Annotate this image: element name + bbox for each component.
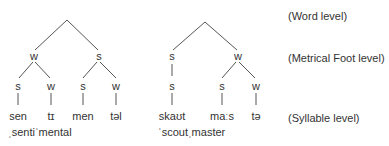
left-foot-node-1: w [30,50,38,62]
left-syllable-3: men [72,110,93,122]
right-syllable-3: tə [251,110,260,122]
right-syllable-node-3: w [252,80,260,92]
left-syllable-node-1: s [15,80,21,92]
syllable-level-label: (Syllable level) [288,112,360,124]
left-stressed-form: ˌsentiˈmental [8,126,72,138]
right-syllable-node-2: s [219,80,225,92]
left-syllable-4: təl [110,110,122,122]
left-foot-node-2: s [96,50,102,62]
left-syllable-node-3: s [80,80,86,92]
right-foot-node-2: w [234,50,242,62]
left-syllable-node-2: w [47,80,55,92]
right-syllable-2: maːs [210,110,234,122]
left-syllable-1: sen [9,110,27,122]
left-syllable-2: tɪ [48,110,55,122]
left-syllable-node-4: w [112,80,120,92]
right-syllable-node-1: s [169,80,175,92]
foot-level-label: (Metrical Foot level) [288,52,385,64]
word-level-label: (Word level) [288,10,347,22]
right-stressed-form: ˈscoutˌmaster [158,126,225,138]
right-foot-node-1: s [169,50,175,62]
right-syllable-1: skaʊt [159,110,185,122]
